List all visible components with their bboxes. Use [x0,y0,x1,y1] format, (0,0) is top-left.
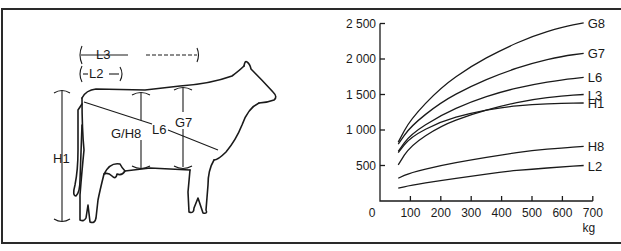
x-axis-unit: kg [582,221,595,235]
x-tick-label: 500 [522,206,542,220]
series-label-h1: H1 [588,96,605,111]
series-label-l2: L2 [588,159,602,174]
y-tick-label: 500 [356,159,376,173]
series-label-h8: H8 [588,139,605,154]
series-label-g8: G8 [588,16,605,31]
series-line-g7 [398,53,583,144]
growth-chart: 5001 0001 5002 0002 50001002003004005006… [0,0,621,251]
x-tick-label: 400 [492,206,512,220]
series-line-h1 [398,103,583,153]
y-tick-label: 1 500 [346,88,376,102]
chart-lines [398,23,583,188]
series-label-l6: L6 [588,70,602,85]
chart-series-labels: G8G7L6L3H1H8L2 [588,16,605,174]
x-tick-label: 700 [583,206,603,220]
x-tick-label: 200 [431,206,451,220]
x-tick-label: 600 [552,206,572,220]
y-tick-label: 2 500 [346,17,376,31]
x-tick-label: 0 [369,206,376,220]
series-label-g7: G7 [588,46,605,61]
chart-axes: 5001 0001 5002 0002 50001002003004005006… [346,17,603,236]
y-tick-label: 1 000 [346,123,376,137]
x-tick-label: 100 [400,206,420,220]
y-tick-label: 2 000 [346,52,376,66]
x-tick-label: 300 [461,206,481,220]
